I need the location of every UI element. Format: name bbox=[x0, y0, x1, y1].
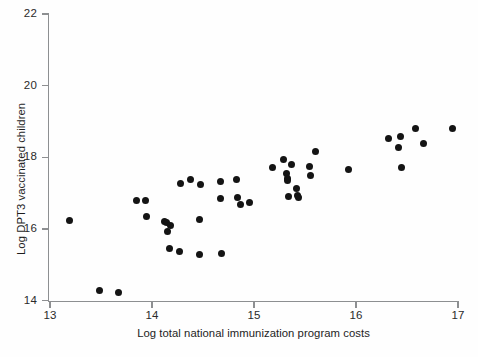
data-point bbox=[449, 125, 456, 132]
data-point bbox=[218, 250, 225, 257]
y-tick-mark bbox=[42, 157, 49, 158]
y-tick-label: 22 bbox=[11, 8, 37, 20]
data-point bbox=[307, 172, 314, 179]
data-point bbox=[237, 201, 244, 208]
x-tick-label: 16 bbox=[341, 310, 371, 322]
data-point bbox=[164, 228, 171, 235]
data-point bbox=[233, 176, 240, 183]
y-tick-mark bbox=[42, 85, 49, 86]
data-point bbox=[284, 177, 291, 184]
data-point bbox=[196, 216, 203, 223]
data-point bbox=[269, 164, 276, 171]
data-point bbox=[176, 248, 183, 255]
x-tick-label: 17 bbox=[443, 310, 473, 322]
y-tick-mark bbox=[42, 300, 49, 301]
data-point bbox=[234, 194, 241, 201]
x-tick-label: 15 bbox=[239, 310, 269, 322]
data-point bbox=[397, 133, 404, 140]
data-point bbox=[285, 193, 292, 200]
data-point bbox=[66, 217, 73, 224]
data-point bbox=[197, 181, 204, 188]
data-point bbox=[177, 180, 184, 187]
x-tick-label: 13 bbox=[35, 310, 65, 322]
x-tick-mark bbox=[49, 301, 50, 308]
data-point bbox=[196, 251, 203, 258]
data-point bbox=[293, 185, 300, 192]
data-point bbox=[143, 213, 150, 220]
data-point bbox=[217, 195, 224, 202]
data-point bbox=[280, 156, 287, 163]
x-tick-mark bbox=[151, 301, 152, 308]
data-point bbox=[96, 287, 103, 294]
y-axis-label: Log DPT3 vaccinated children bbox=[15, 103, 27, 255]
data-point bbox=[398, 164, 405, 171]
y-tick-mark bbox=[42, 13, 49, 14]
data-point bbox=[167, 222, 174, 229]
data-point bbox=[420, 140, 427, 147]
data-point bbox=[306, 163, 313, 170]
data-point bbox=[246, 199, 253, 206]
y-tick-label: 14 bbox=[11, 295, 37, 307]
data-point bbox=[166, 245, 173, 252]
data-point bbox=[142, 197, 149, 204]
data-point bbox=[312, 148, 319, 155]
x-tick-label: 14 bbox=[137, 310, 167, 322]
data-point bbox=[115, 289, 122, 296]
x-tick-mark bbox=[355, 301, 356, 308]
x-axis-label: Log total national immunization program … bbox=[49, 327, 458, 339]
data-point bbox=[295, 194, 302, 201]
data-point bbox=[395, 144, 402, 151]
plot-data-area bbox=[49, 14, 458, 301]
scatter-plot-figure: 1416182022 1314151617 Log DPT3 vaccinate… bbox=[0, 0, 478, 357]
data-point bbox=[412, 125, 419, 132]
data-point bbox=[133, 197, 140, 204]
data-point bbox=[187, 176, 194, 183]
y-tick-mark bbox=[42, 228, 49, 229]
data-point bbox=[288, 161, 295, 168]
data-point bbox=[345, 166, 352, 173]
x-tick-mark bbox=[457, 301, 458, 308]
data-point bbox=[217, 178, 224, 185]
x-tick-mark bbox=[253, 301, 254, 308]
y-tick-label: 20 bbox=[11, 80, 37, 92]
data-point bbox=[385, 135, 392, 142]
